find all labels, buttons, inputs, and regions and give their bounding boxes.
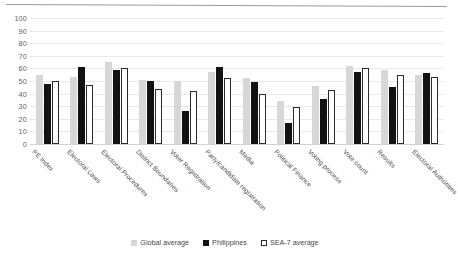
bar-global: [381, 70, 388, 144]
bar-global: [105, 62, 112, 144]
bar-global: [277, 101, 284, 144]
bar-group: [203, 18, 238, 144]
bar-phil: [182, 111, 189, 144]
bar-phil: [423, 73, 430, 144]
bar-global: [208, 72, 215, 144]
x-axis-category-labels: PE IndexElectoral LawsElectoral Procedur…: [30, 148, 444, 228]
bar-sea: [52, 81, 59, 144]
bar-phil: [285, 123, 292, 144]
legend-item[interactable]: Philippines: [203, 238, 247, 247]
bar-global: [346, 66, 353, 144]
plot-area: 0102030405060708090100: [0, 18, 450, 148]
bar-phil: [78, 67, 85, 144]
chart-legend: Global averagePhilippinesSEA-7 average: [0, 238, 450, 247]
bar-sea: [328, 90, 335, 144]
x-axis-label: Party/candidate registration: [204, 148, 268, 212]
bar-sea: [121, 68, 128, 144]
bar-phil: [147, 81, 154, 144]
bar-phil: [113, 70, 120, 144]
bar-phil: [320, 99, 327, 144]
y-axis-tick-label: 0: [23, 140, 27, 149]
bar-group: [237, 18, 272, 144]
bar-group: [30, 18, 65, 144]
bar-group: [99, 18, 134, 144]
x-axis-label: PE Index: [31, 148, 55, 172]
bar-group: [341, 18, 376, 144]
bar-sea: [190, 91, 197, 144]
bar-group: [134, 18, 169, 144]
bar-phil: [354, 72, 361, 144]
y-axis-tick-label: 80: [19, 39, 27, 48]
top-divider-rule: [6, 4, 447, 7]
bar-group: [272, 18, 307, 144]
x-axis-label: Vote count: [342, 148, 370, 176]
legend-swatch-phil: [203, 240, 209, 246]
bar-sea: [259, 94, 266, 144]
y-axis-tick-label: 20: [19, 114, 27, 123]
bar-global: [174, 81, 181, 144]
axis-baseline: [30, 144, 444, 145]
bar-sea: [86, 85, 93, 144]
x-axis-label: Media: [238, 148, 256, 166]
bar-group: [410, 18, 445, 144]
bar-sea: [293, 107, 300, 144]
bar-global: [36, 75, 43, 144]
legend-swatch-sea: [261, 240, 267, 246]
bar-phil: [251, 82, 258, 144]
y-axis-tick-label: 40: [19, 89, 27, 98]
y-axis-tick-label: 60: [19, 64, 27, 73]
x-axis-label: Electoral Authorities: [411, 148, 458, 196]
y-axis-tick-label: 90: [19, 26, 27, 35]
legend-label: Philippines: [212, 238, 247, 247]
y-axis-tick-label: 50: [19, 77, 27, 86]
legend-label: Global average: [140, 238, 189, 247]
bar-sea: [224, 78, 231, 144]
legend-label: SEA-7 average: [270, 238, 319, 247]
x-axis-label: Political Finance: [273, 148, 313, 188]
x-axis-label: Electoral Laws: [66, 148, 102, 184]
x-axis-label: Voting process: [307, 148, 344, 185]
legend-item[interactable]: Global average: [131, 238, 189, 247]
bar-sea: [155, 89, 162, 144]
bar-phil: [389, 87, 396, 144]
legend-item[interactable]: SEA-7 average: [261, 238, 319, 247]
bar-global: [139, 80, 146, 144]
y-axis-tick-label: 70: [19, 51, 27, 60]
bar-group: [168, 18, 203, 144]
bar-group: [65, 18, 100, 144]
bar-sea: [431, 77, 438, 144]
legend-swatch-global: [131, 240, 137, 246]
bar-phil: [216, 67, 223, 144]
bar-global: [243, 78, 250, 144]
bar-sea: [362, 68, 369, 144]
y-axis-tick-label: 100: [14, 14, 27, 23]
y-axis-tick-label: 10: [19, 127, 27, 136]
bar-phil: [44, 84, 51, 144]
bars-container: [30, 18, 444, 144]
bar-global: [70, 77, 77, 144]
bar-sea: [397, 75, 404, 144]
bar-group: [375, 18, 410, 144]
x-axis-label: Results: [376, 148, 397, 169]
bar-global: [415, 75, 422, 144]
y-axis: 0102030405060708090100: [0, 18, 30, 144]
bar-global: [312, 86, 319, 144]
y-axis-tick-label: 30: [19, 102, 27, 111]
bar-group: [306, 18, 341, 144]
